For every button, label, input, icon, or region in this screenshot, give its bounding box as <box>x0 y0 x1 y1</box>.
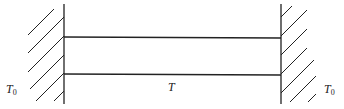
rod-temp-label: T <box>168 80 176 94</box>
left-wall <box>28 4 64 104</box>
right-wall-hatching <box>281 6 316 102</box>
right-temp-label: T0 <box>324 82 335 97</box>
rod-bottom-edge <box>64 74 281 75</box>
right-wall <box>281 4 316 104</box>
left-wall-hatching <box>28 9 64 101</box>
left-temp-label: T0 <box>6 82 17 97</box>
rod-diagram: T0 T T0 <box>0 0 344 109</box>
rod-top-edge <box>64 37 281 38</box>
rod <box>64 37 281 75</box>
